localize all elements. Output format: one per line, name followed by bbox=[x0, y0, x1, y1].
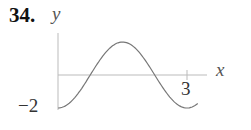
plot-area bbox=[0, 0, 251, 130]
